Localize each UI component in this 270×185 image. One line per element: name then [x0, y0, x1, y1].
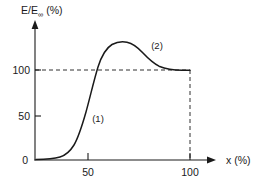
y-axis-title-unit: (%)	[46, 4, 62, 16]
x-axis-title-unit: (%)	[234, 154, 250, 166]
curve-annotation-2: (2)	[151, 40, 163, 51]
chart-figure: E/E∞ (%) x (%) 100 50 0 50 100 (1) (2)	[0, 0, 270, 185]
x-tick-label-100: 100	[181, 166, 199, 178]
y-tick-label-50: 50	[18, 110, 30, 122]
x-tick-label-50: 50	[82, 166, 94, 178]
y-axis-title: E/E∞ (%)	[21, 4, 63, 19]
origin-label-zero: 0	[22, 154, 28, 166]
chart-canvas: E/E∞ (%) x (%) 100 50 0 50 100 (1) (2)	[0, 0, 270, 185]
y-axis-arrow-icon	[32, 20, 39, 29]
y-tick-label-100: 100	[12, 64, 30, 76]
x-axis-title: x (%)	[226, 154, 251, 166]
x-axis-arrow-icon	[207, 157, 216, 164]
y-axis-title-base: E/E	[21, 4, 38, 16]
data-curve-line	[36, 42, 190, 160]
curve-annotation-1: (1)	[92, 113, 104, 124]
